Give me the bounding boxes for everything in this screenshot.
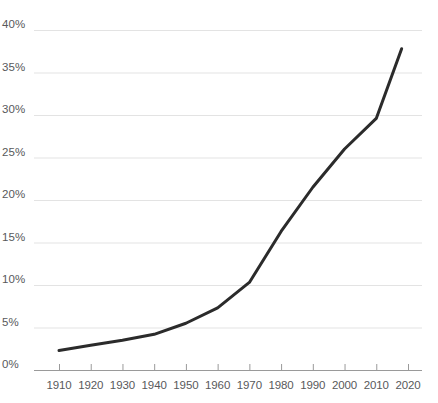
y-axis-tick-label: 40% (2, 19, 25, 30)
gridlines (34, 31, 422, 371)
y-axis-tick-label: 25% (2, 147, 25, 158)
y-axis-tick-label: 10% (2, 274, 25, 285)
y-axis-tick-label: 30% (2, 104, 25, 115)
x-axis-tick-label: 2020 (388, 380, 428, 391)
y-axis-tick-label: 35% (2, 62, 25, 73)
chart-plot-area (0, 0, 438, 403)
x-axis-ticks (60, 364, 409, 370)
data-series-line (59, 49, 402, 351)
y-axis-tick-label: 15% (2, 232, 25, 243)
y-axis-tick-label: 0% (2, 359, 19, 370)
line-chart: 0%5%10%15%20%25%30%35%40% 19101920193019… (0, 0, 438, 403)
series-line (59, 49, 402, 351)
y-axis-tick-label: 20% (2, 189, 25, 200)
y-axis-tick-label: 5% (2, 317, 19, 328)
